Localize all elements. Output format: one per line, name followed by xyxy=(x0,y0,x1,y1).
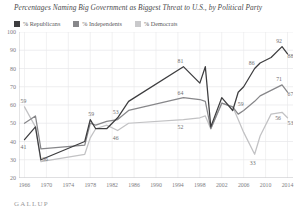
x-axis-tick-label: 1990 xyxy=(150,182,162,188)
plot-area: 594136595346816452869288716759565333 xyxy=(19,32,293,178)
y-axis-tick-label: 50 xyxy=(10,120,16,126)
data-point-label: 86 xyxy=(249,60,255,66)
legend-swatch-republicans xyxy=(14,21,20,27)
y-axis-tick-label: 40 xyxy=(10,139,16,145)
data-point-label: 59 xyxy=(238,101,244,107)
x-axis-tick-label: 1970 xyxy=(41,182,53,188)
legend-label-republicans: % Republicans xyxy=(23,20,60,27)
legend-item-republicans: % Republicans xyxy=(14,20,60,27)
x-axis-tick-label: 1978 xyxy=(84,182,96,188)
data-point-label: 92 xyxy=(276,38,282,44)
data-point-label: 53 xyxy=(288,120,293,126)
legend-item-independents: % Independents xyxy=(73,20,122,27)
y-axis-tick-label: 70 xyxy=(10,84,16,90)
x-axis-tick-label: 1994 xyxy=(172,182,184,188)
chart-root: Percentages Naming Big Government as Big… xyxy=(0,0,299,219)
data-point-label: 36 xyxy=(42,156,48,162)
data-point-label: 41 xyxy=(21,144,27,150)
page-title: Percentages Naming Big Government as Big… xyxy=(14,3,262,12)
x-axis-tick-label: 2002 xyxy=(216,182,228,188)
chart-legend: % Republicans % Independents % Democrats xyxy=(14,20,178,27)
x-axis-tick-label: 1998 xyxy=(194,182,206,188)
data-point-label: 33 xyxy=(250,160,256,166)
data-point-label: 64 xyxy=(178,90,184,96)
x-axis-labels: 1966197019741978198219861990199419982002… xyxy=(19,182,293,194)
legend-label-independents: % Independents xyxy=(82,20,122,27)
data-point-label: 52 xyxy=(178,124,184,130)
data-point-label: 56 xyxy=(275,115,281,121)
x-axis-tick-label: 2010 xyxy=(260,182,272,188)
x-axis-tick-label: 2014 xyxy=(282,182,294,188)
data-point-label: 71 xyxy=(276,76,282,82)
data-point-label: 46 xyxy=(113,135,119,141)
y-axis-tick-label: 30 xyxy=(10,157,16,163)
x-axis-tick-label: 2006 xyxy=(238,182,250,188)
data-point-label: 59 xyxy=(88,111,94,117)
plot-area-wrapper: 1009080706050403020 59413659534681645286… xyxy=(0,32,299,192)
data-point-label: 59 xyxy=(21,98,27,104)
x-axis-tick-label: 1966 xyxy=(19,182,31,188)
y-axis-tick-label: 80 xyxy=(10,66,16,72)
data-point-label: 88 xyxy=(288,53,293,59)
y-axis-tick-label: 60 xyxy=(10,102,16,108)
legend-swatch-democrats xyxy=(135,21,141,27)
x-axis-tick-label: 1982 xyxy=(106,182,118,188)
y-axis-tick-label: 90 xyxy=(10,47,16,53)
x-axis-tick-label: 1986 xyxy=(128,182,140,188)
legend-item-democrats: % Democrats xyxy=(135,20,178,27)
y-axis-labels: 1009080706050403020 xyxy=(0,32,17,178)
data-point-label: 67 xyxy=(288,91,293,97)
line-chart-svg: 594136595346816452869288716759565333 xyxy=(19,32,293,178)
x-axis-tick-label: 1974 xyxy=(63,182,75,188)
data-point-label: 81 xyxy=(178,58,184,64)
gallup-logo: GALLUP xyxy=(14,200,49,208)
y-axis-tick-label: 20 xyxy=(10,175,16,181)
legend-label-democrats: % Democrats xyxy=(144,20,178,27)
y-axis-tick-label: 100 xyxy=(7,29,16,35)
legend-swatch-independents xyxy=(73,21,79,27)
data-point-label: 53 xyxy=(113,109,119,115)
